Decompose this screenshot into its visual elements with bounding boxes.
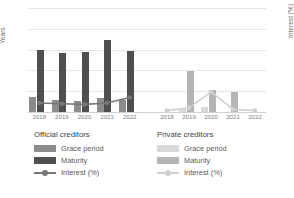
interest-data-point <box>60 101 65 106</box>
legend-item[interactable]: Interest (%) <box>157 168 227 177</box>
legend-line-marker-icon <box>34 168 56 177</box>
legend-item[interactable]: Grace period <box>157 144 227 153</box>
legend-item[interactable]: Maturity <box>157 156 227 165</box>
legend-official-title: Official creditors <box>34 130 104 139</box>
interest-data-point <box>187 106 192 111</box>
plot-area: 01020304050 03691215 2018201920202021202… <box>28 8 266 112</box>
legend-item[interactable]: Maturity <box>34 156 104 165</box>
legend-item-label: Maturity <box>61 156 87 165</box>
interest-data-point <box>82 102 87 107</box>
x-tick-label: 2022 <box>242 114 268 120</box>
interest-data-point <box>127 95 132 100</box>
dual-panel-chart: Years Interest (%) 01020304050 03691215 … <box>0 0 294 198</box>
legend-official-creditors: Official creditors Grace periodMaturityI… <box>34 130 104 180</box>
y-axis-left-title: Years <box>0 27 6 44</box>
interest-line-series <box>28 8 141 112</box>
legend-item-label: Grace period <box>184 144 227 153</box>
legend-item-label: Maturity <box>184 156 210 165</box>
x-tick-label: 2022 <box>117 114 143 120</box>
legend-private-title: Private creditors <box>157 130 227 139</box>
panel-official-creditors <box>28 8 141 112</box>
legend-item[interactable]: Grace period <box>34 144 104 153</box>
legend-item-label: Interest (%) <box>61 168 99 177</box>
interest-line-series <box>156 8 266 112</box>
interest-data-point <box>231 107 236 112</box>
legend-swatch-icon <box>34 157 56 164</box>
legend-item-label: Interest (%) <box>184 168 222 177</box>
legend-swatch-icon <box>34 145 56 152</box>
legend-line-marker-icon <box>157 168 179 177</box>
legend-item-label: Grace period <box>61 144 104 153</box>
legend-private-creditors: Private creditors Grace periodMaturityIn… <box>157 130 227 180</box>
legend-item[interactable]: Interest (%) <box>34 168 104 177</box>
legend-swatch-icon <box>157 157 179 164</box>
interest-data-point <box>37 101 42 106</box>
interest-data-point <box>105 101 110 106</box>
interest-data-point <box>209 90 214 95</box>
y-axis-right-title: Interest (%) <box>287 4 294 38</box>
legend-swatch-icon <box>157 145 179 152</box>
panel-private-creditors <box>156 8 266 112</box>
